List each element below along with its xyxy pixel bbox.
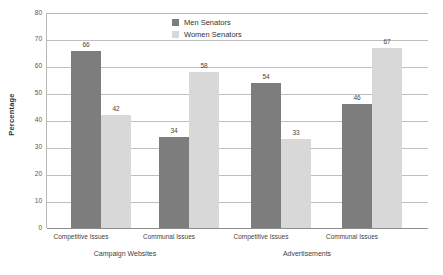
bar-men-communal-ads[interactable]: [342, 104, 372, 228]
bar-value-label: 54: [251, 74, 281, 81]
x-axis-baseline: [47, 228, 428, 229]
bar-value-label: 33: [281, 130, 311, 137]
group-label-advertisements: Advertisements: [257, 250, 357, 257]
y-tick-30: 30: [24, 144, 42, 151]
y-tick-80: 80: [24, 10, 42, 17]
y-tick-50: 50: [24, 90, 42, 97]
bars-layer: 66 42 34 58 54 33 46 67: [46, 13, 428, 228]
category-label-communal-ads: Communal Issues: [302, 234, 402, 241]
group-label-campaign-websites: Campaign Websites: [75, 250, 175, 257]
legend-label: Men Senators: [184, 18, 231, 27]
category-label-competitive-websites: Competitive Issues: [31, 234, 131, 241]
category-label-competitive-ads: Competitive Issues: [211, 234, 311, 241]
bar-value-label: 34: [159, 128, 189, 135]
bar-value-label: 67: [372, 39, 402, 46]
bar-men-communal-websites[interactable]: [159, 137, 189, 228]
chart-legend: Men Senators Women Senators: [172, 18, 242, 42]
bar-women-communal-websites[interactable]: [189, 72, 219, 228]
bar-value-label: 58: [189, 63, 219, 70]
bar-women-communal-ads[interactable]: [372, 48, 402, 228]
legend-item-women-senators[interactable]: Women Senators: [172, 30, 242, 39]
bar-men-competitive-ads[interactable]: [251, 83, 281, 228]
y-tick-70: 70: [24, 36, 42, 43]
bar-men-competitive-websites[interactable]: [71, 51, 101, 228]
bar-value-label: 42: [101, 106, 131, 113]
y-tick-10: 10: [24, 198, 42, 205]
legend-swatch-icon: [172, 19, 179, 26]
bar-women-competitive-ads[interactable]: [281, 139, 311, 228]
category-label-communal-websites: Communal Issues: [119, 234, 219, 241]
bar-chart: Percentage 80 70 60 50 40 30 20 10 0 66 …: [0, 0, 443, 275]
y-tick-60: 60: [24, 63, 42, 70]
legend-swatch-icon: [172, 31, 179, 38]
y-axis-title: Percentage: [0, 0, 22, 228]
bar-women-competitive-websites[interactable]: [101, 115, 131, 228]
bar-value-label: 46: [342, 95, 372, 102]
legend-label: Women Senators: [184, 30, 242, 39]
bar-value-label: 66: [71, 42, 101, 49]
y-tick-0: 0: [24, 225, 42, 232]
y-tick-40: 40: [24, 117, 42, 124]
legend-item-men-senators[interactable]: Men Senators: [172, 18, 242, 27]
y-axis-title-text: Percentage: [7, 93, 16, 135]
y-tick-20: 20: [24, 171, 42, 178]
